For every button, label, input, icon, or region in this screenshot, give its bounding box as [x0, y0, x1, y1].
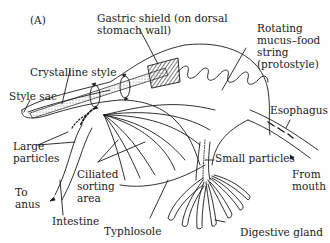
typhlosole [120, 165, 205, 186]
gastric-shield [148, 58, 180, 88]
label-small-particles: Small particles [215, 152, 295, 164]
digestive-gland-lobes [168, 175, 250, 229]
bivalve-stomach-diagram: (A) Gastric shield (on dorsal stomach wa… [0, 0, 330, 243]
label-typhlosole: Typhlosole [104, 225, 161, 237]
protostyle-coil [178, 66, 268, 84]
label-rotating-string: Rotating mucus–food string (protostyle) [257, 22, 320, 70]
label-ciliated-sorting: Ciliated sorting area [77, 168, 119, 204]
panel-label: (A) [30, 14, 46, 26]
stomach-wall [22, 44, 270, 135]
label-style-sac: Style sac [9, 90, 57, 102]
label-digestive-gland: Digestive gland [240, 226, 323, 238]
label-intestine: Intestine [52, 215, 99, 227]
esophagus [250, 110, 318, 150]
label-esophagus: Esophagus [270, 104, 328, 116]
label-to-anus: To anus [15, 186, 40, 210]
label-large-particles: Large particles [13, 140, 59, 164]
label-from-mouth: From mouth [292, 168, 326, 192]
label-gastric-shield: Gastric shield (on dorsal stomach wall) [97, 12, 228, 36]
label-crystalline-style: Crystalline style [30, 66, 116, 78]
